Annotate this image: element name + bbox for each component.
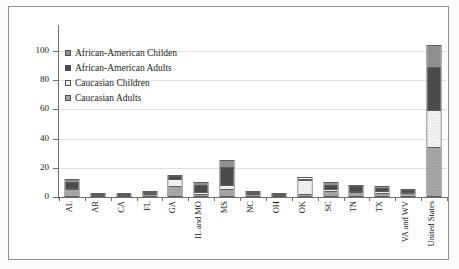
bar-segment: [91, 195, 104, 196]
x-axis-tick: [59, 197, 60, 201]
x-axis-tick-label: GA: [168, 201, 182, 213]
bar-segment: [428, 111, 441, 148]
stacked-bar[interactable]: [297, 177, 312, 197]
x-axis-tick-label: AR: [91, 201, 105, 213]
legend-item-label: African-American Adults: [75, 63, 172, 73]
chart-figure: 020406080100 ALARCAFLGAIL and MOMSNCOHOK…: [0, 0, 459, 269]
x-axis-tick: [214, 197, 215, 201]
x-axis-tick: [369, 197, 370, 201]
legend-item[interactable]: Caucasian Children: [65, 77, 177, 89]
x-axis-tick-label: MS: [220, 201, 234, 213]
legend-swatch-icon: [65, 50, 71, 56]
bar-segment: [169, 187, 182, 196]
bar-segment: [272, 195, 285, 196]
bar-segment: [195, 195, 208, 196]
legend-swatch-icon: [65, 95, 71, 101]
legend-item[interactable]: African-American Childen: [65, 47, 177, 59]
x-axis-tick: [421, 197, 422, 201]
legend-item-label: African-American Childen: [75, 48, 177, 58]
x-axis-tick-label: OK: [298, 201, 312, 213]
stacked-bar[interactable]: [271, 193, 286, 197]
x-axis-tick: [162, 197, 163, 201]
x-axis-tick-label: United States: [427, 201, 441, 247]
bar-segment: [221, 161, 234, 168]
stacked-bar[interactable]: [323, 182, 338, 197]
stacked-bar[interactable]: [90, 193, 105, 197]
x-axis-tick-label: AL: [65, 201, 79, 212]
x-axis-tick-label: NC: [246, 201, 260, 213]
legend-item-label: Caucasian Adults: [75, 93, 141, 103]
bar-segment: [221, 190, 234, 196]
stacked-bar[interactable]: [116, 194, 131, 197]
stacked-bar[interactable]: [220, 160, 235, 197]
bar-segment: [428, 148, 441, 196]
x-axis-tick: [292, 197, 293, 201]
stacked-bar[interactable]: [245, 191, 260, 197]
y-axis-tick-label: 40: [9, 134, 49, 143]
bar-segment: [65, 190, 78, 196]
bar-segment: [246, 195, 259, 196]
bar-segment: [169, 180, 182, 187]
bar-segment: [221, 168, 234, 186]
x-axis-tick: [266, 197, 267, 201]
x-axis-line: [58, 197, 447, 198]
x-axis-tick: [85, 197, 86, 201]
bar-segment: [376, 194, 389, 196]
legend-swatch-icon: [65, 80, 71, 86]
x-axis-tick: [447, 197, 448, 201]
x-axis-tick-label: TX: [375, 201, 389, 212]
y-axis-tick-label: 0: [9, 192, 49, 201]
x-axis-tick: [240, 197, 241, 201]
stacked-bar[interactable]: [168, 175, 183, 197]
x-axis-tick-label: SC: [324, 201, 338, 211]
stacked-bar[interactable]: [401, 189, 416, 197]
x-axis-tick: [344, 197, 345, 201]
y-axis-tick-label: 80: [9, 75, 49, 84]
stacked-bar[interactable]: [349, 185, 364, 197]
chart-legend: African-American ChildenAfrican-American…: [65, 47, 177, 107]
x-axis-tick-label: IL and MO: [194, 201, 208, 239]
bar-segment: [117, 195, 130, 196]
stacked-bar[interactable]: [375, 186, 390, 197]
bar-segment: [195, 186, 208, 193]
x-axis-tick: [318, 197, 319, 201]
x-axis-tick: [395, 197, 396, 201]
bar-segment: [324, 192, 337, 196]
stacked-bar[interactable]: [142, 191, 157, 197]
legend-item[interactable]: African-American Adults: [65, 62, 177, 74]
x-axis-tick-label: CA: [117, 201, 131, 213]
bar-segment: [298, 181, 311, 194]
legend-item-label: Caucasian Children: [75, 78, 150, 88]
bar-segment: [428, 68, 441, 112]
bar-segment: [350, 193, 363, 196]
bar-segment: [143, 195, 156, 196]
bar-segment: [402, 194, 415, 196]
x-axis-tick-label: VA and WV: [401, 201, 415, 242]
bar-segment: [428, 46, 441, 68]
stacked-bar[interactable]: [194, 182, 209, 197]
chart-frame: 020406080100 ALARCAFLGAIL and MOMSNCOHOK…: [8, 6, 449, 260]
x-axis-tick-label: FL: [143, 201, 157, 211]
bar-segment: [298, 195, 311, 196]
legend-item[interactable]: Caucasian Adults: [65, 92, 177, 104]
x-axis-tick-label: OH: [272, 201, 286, 213]
x-axis-tick-label: TN: [349, 201, 363, 212]
stacked-bar[interactable]: [427, 45, 442, 197]
x-axis-tick: [137, 197, 138, 201]
x-axis-tick: [188, 197, 189, 201]
x-axis-tick: [111, 197, 112, 201]
legend-swatch-icon: [65, 65, 71, 71]
y-axis-tick-label: 100: [9, 46, 49, 55]
y-axis-tick-label: 60: [9, 104, 49, 113]
stacked-bar[interactable]: [64, 179, 79, 197]
y-axis-tick-label: 20: [9, 163, 49, 172]
